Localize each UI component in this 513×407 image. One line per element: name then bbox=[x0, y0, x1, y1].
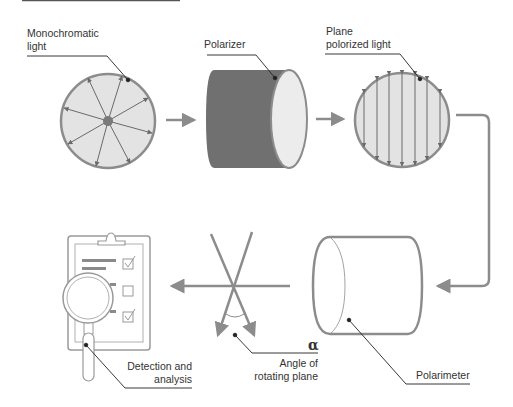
label-line: Polarizer bbox=[204, 38, 245, 51]
polarizer-label: Polarizer bbox=[204, 38, 245, 51]
polarimeter-label: Polarimeter bbox=[416, 369, 470, 382]
monochromatic-light-label: Monochromatic light bbox=[27, 27, 99, 53]
flow-arrow-3 bbox=[438, 115, 489, 286]
plane-polarized-light-label: Plane polorized light bbox=[326, 25, 391, 51]
polarized-light-circle-icon bbox=[355, 73, 449, 167]
polarizer-cylinder-icon bbox=[206, 70, 307, 168]
light-wave-circle-icon bbox=[61, 74, 155, 168]
detection-and-analysis-label: Detection and analysis bbox=[112, 360, 192, 386]
label-line: Monochromatic bbox=[27, 27, 99, 40]
polarimetry-diagram bbox=[0, 0, 513, 407]
label-line: light bbox=[27, 40, 99, 53]
label-line: Angle of bbox=[238, 357, 318, 370]
alpha-symbol: α bbox=[308, 337, 319, 353]
polarimeter-cylinder-icon bbox=[313, 237, 422, 334]
label-line: Polarimeter bbox=[416, 369, 470, 382]
rotation-angle-icon bbox=[172, 232, 290, 335]
label-line: analysis bbox=[112, 373, 192, 386]
angle-of-rotating-plane-label: Angle of rotating plane bbox=[238, 357, 318, 383]
label-line: polorized light bbox=[326, 38, 391, 51]
label-line: Detection and bbox=[112, 360, 192, 373]
label-line: Plane bbox=[326, 25, 391, 38]
clipboard-magnifier-icon bbox=[63, 233, 150, 381]
label-line: rotating plane bbox=[238, 370, 318, 383]
